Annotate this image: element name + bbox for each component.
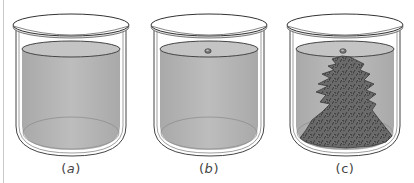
seed-crystal-icon [205,49,211,54]
panel-b-beaker-seed-crystal-added: (b) [140,0,278,183]
panel-a-caption: (a) [2,161,140,176]
panel-a-beaker-supersaturated-solution: (a) [2,0,140,183]
panel-b-caption: (b) [140,161,278,176]
beaker-icon [140,0,278,183]
beaker-icon [276,0,414,183]
panel-c-caption: (c) [276,161,414,176]
panel-c-beaker-crystallization: (c) [276,0,414,183]
beaker-icon [2,0,140,183]
seed-crystal-icon [340,49,346,54]
